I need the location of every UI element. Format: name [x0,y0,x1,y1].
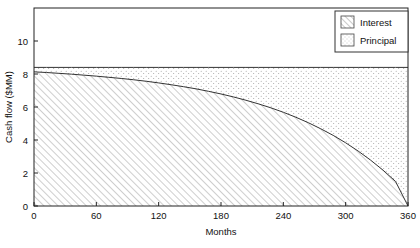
x-tick-label: 360 [400,210,416,221]
legend-label-interest: Interest [360,17,392,28]
x-tick-label: 120 [151,210,167,221]
legend-label-principal: Principal [360,35,396,46]
diagonal-hatch-swatch-icon [341,16,354,28]
y-tick-label: 4 [23,135,28,146]
legend-item-principal[interactable]: Principal [341,34,396,46]
x-tick-label: 180 [213,210,229,221]
x-tick-label: 60 [91,210,102,221]
x-tick-label: 240 [275,210,291,221]
y-tick-label: 8 [23,69,28,80]
x-axis-title: Months [205,226,236,237]
y-tick-label: 2 [23,168,28,179]
y-tick-label: 0 [23,201,28,212]
cash-flow-chart: 060120180240300360 0246810 Months Cash f… [0,0,420,248]
y-tick-label: 10 [17,36,28,47]
y-tick-label: 6 [23,102,28,113]
dot-stipple-swatch-icon [341,34,354,46]
plot-series-group [34,67,408,206]
x-tick-label: 0 [31,210,36,221]
legend-item-interest[interactable]: Interest [341,16,392,28]
y-axis-title: Cash flow ($MM) [3,71,14,143]
legend: Interest Principal [335,11,408,52]
x-tick-label: 300 [338,210,354,221]
